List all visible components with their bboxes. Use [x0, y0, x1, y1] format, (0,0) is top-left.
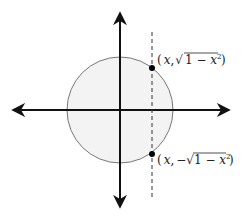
svg-text:): ) — [229, 153, 234, 167]
upper-point-label: (x,√ 1 − x2 ) — [157, 53, 226, 67]
svg-text:(x,√: (x,√ — [157, 53, 183, 67]
lower-point-label: (x,−√ 1 − x2 ) — [157, 153, 234, 167]
unit-circle-diagram: (x,√ 1 − x2 ) (x,−√ 1 − x2 ) — [0, 0, 243, 216]
svg-text:1 − x2: 1 − x2 — [185, 53, 222, 67]
svg-text:(x,−√: (x,−√ — [157, 153, 194, 167]
lower-intersection-point — [149, 151, 155, 157]
svg-text:1 − x2: 1 − x2 — [194, 153, 231, 167]
svg-text:): ) — [221, 53, 226, 67]
upper-intersection-point — [149, 65, 155, 71]
